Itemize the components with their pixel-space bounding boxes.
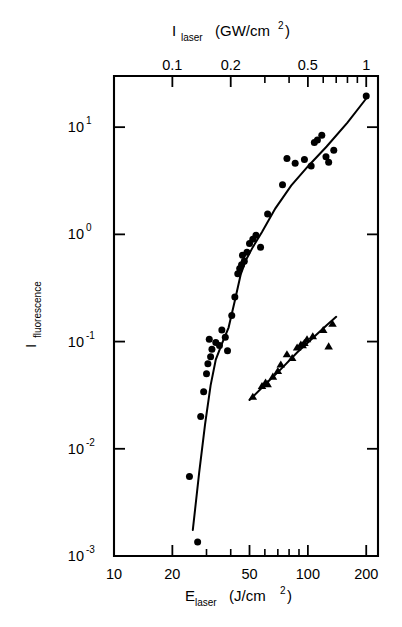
data-point-circle [231,294,238,301]
left-tick-label: 10-1 [68,330,95,350]
data-point-circle [330,147,337,154]
data-point-circle [222,334,229,341]
top-tick-label: 0.5 [298,57,318,73]
left-tick-label-mantissa: 10 [68,226,84,242]
data-point-circle [228,312,235,319]
left-tick-label: 100 [68,222,92,242]
top-axis-ticks [172,76,366,87]
left-axis-title-subscript: fluorescence [32,281,43,338]
data-point-triangle [324,342,333,349]
data-point-circle [363,93,370,100]
bottom-tick-label: 20 [164,566,180,582]
data-point-circle [204,360,211,367]
left-tick-label-mantissa: 10 [68,119,84,135]
top-axis-title-subscript: laser [181,32,203,43]
fit-curve-circles-fit [193,99,366,530]
data-point-circle [252,232,259,239]
top-tick-label: 0.2 [221,57,241,73]
data-point-circle [283,155,290,162]
bottom-axis-title-units-exponent: 2 [280,585,286,596]
data-point-circle [301,156,308,163]
bottom-tick-label: 100 [296,566,320,582]
left-tick-label: 10-3 [68,544,95,564]
left-axis-ticks [114,127,378,556]
data-point-circle [292,160,299,167]
data-point-circle [279,181,286,188]
data-point-circle [200,388,207,395]
left-tick-label-exponent: 0 [86,222,92,233]
data-point-circle [257,244,264,251]
data-point-circle [206,336,213,343]
left-axis-title-base: I [22,344,39,348]
data-point-circle [241,258,248,265]
data-point-circle [308,162,315,169]
left-tick-label-exponent: 1 [86,115,92,126]
series-circles-markers [186,93,370,546]
data-point-circle [243,249,250,256]
bottom-tick-label: 200 [354,566,378,582]
data-point-circle [207,353,214,360]
bottom-tick-label: 10 [106,566,122,582]
data-point-circle [224,347,231,354]
log-log-scatter-chart: 0.10.20.51 102050100200 10-310-210-11001… [0,0,402,627]
left-tick-label-mantissa: 10 [68,548,84,564]
bottom-tick-label: 50 [241,566,257,582]
top-axis-title-units-close: ) [285,22,290,39]
top-axis-title-units: (GW/cm [215,22,270,39]
bottom-axis-title: E laser (J/cm 2 ) [185,585,292,608]
bottom-axis-title-units-close: ) [287,587,292,604]
data-point-circle [325,159,332,166]
left-tick-label: 101 [68,115,92,135]
bottom-axis-title-units: (J/cm [229,587,266,604]
data-point-circle [186,473,193,480]
data-point-circle [203,370,210,377]
plot-frame [114,76,378,556]
data-point-circle [194,539,201,546]
top-axis-title: I laser (GW/cm 2 ) [172,20,290,43]
bottom-axis-title-subscript: laser [195,597,217,608]
top-axis-tick-labels: 0.10.20.51 [162,57,370,73]
bottom-axis-title-base: E [185,587,195,604]
data-point-circle [216,342,223,349]
top-tick-label: 0.1 [162,57,182,73]
data-point-triangle [277,360,286,367]
left-tick-label-exponent: -3 [86,544,95,555]
left-tick-label-exponent: -1 [86,330,95,341]
plot-border [114,76,378,556]
top-tick-label: 1 [362,57,370,73]
left-axis-title: I fluorescence [22,281,43,348]
left-tick-label-mantissa: 10 [68,441,84,457]
top-axis-title-base: I [172,22,176,39]
data-point-circle [208,346,215,353]
top-axis-title-units-exponent: 2 [278,20,284,31]
left-tick-label-exponent: -2 [86,437,95,448]
bottom-axis-ticks [172,545,366,556]
data-point-circle [264,210,271,217]
figure-panel: 0.10.20.51 102050100200 10-310-210-11001… [0,0,402,627]
left-axis-tick-labels: 10-310-210-1100101 [68,115,95,564]
series-triangles-markers [249,320,337,400]
data-point-circle [318,132,325,139]
left-tick-label: 10-2 [68,437,95,457]
bottom-axis-tick-labels: 102050100200 [106,566,378,582]
data-point-circle [218,327,225,334]
data-point-circle [197,413,204,420]
left-tick-label-mantissa: 10 [68,334,84,350]
fit-curves [193,99,366,530]
data-point-triangle [283,350,292,357]
